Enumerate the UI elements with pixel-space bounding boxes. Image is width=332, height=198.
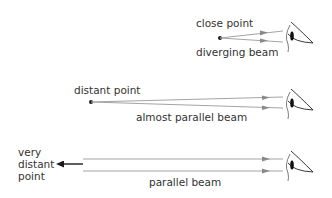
close-point-label: close point — [196, 17, 253, 29]
diverging-ray-lower — [220, 38, 283, 42]
very-distant-label-line1: very — [18, 146, 41, 158]
distant-point-label: distant point — [74, 84, 141, 96]
eye-icon — [286, 89, 313, 119]
eye-icon — [286, 151, 313, 181]
eye-icon — [286, 22, 313, 52]
arrowhead-icon — [262, 157, 270, 162]
arrowhead-icon — [262, 96, 270, 101]
very-distant-label-line2: distant — [18, 158, 54, 170]
parallel-beam-label: parallel beam — [149, 176, 221, 188]
distant-point-row — [89, 96, 283, 111]
close-point-row — [218, 31, 283, 44]
diverging-beam-label: diverging beam — [196, 46, 278, 58]
arrowhead-icon — [260, 39, 268, 44]
very-distant-label-line3: point — [18, 170, 45, 182]
diverging-ray-upper — [220, 31, 283, 38]
arrowhead-icon — [262, 106, 270, 111]
almost-parallel-beam-label: almost parallel beam — [136, 111, 247, 123]
very-distant-point-row — [64, 157, 283, 174]
arrowhead-icon — [262, 169, 270, 174]
